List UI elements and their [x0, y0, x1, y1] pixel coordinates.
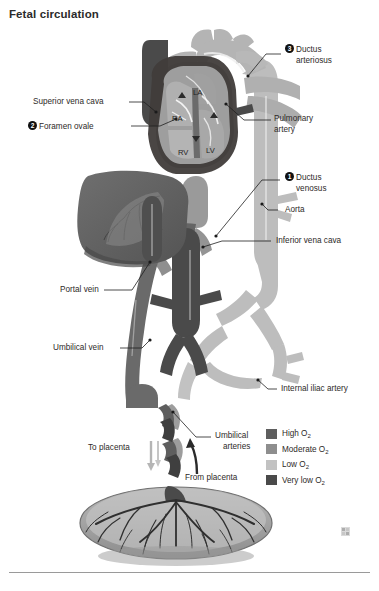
figure-page: Fetal circulation: [0, 0, 379, 591]
portal-vein: [142, 196, 162, 262]
callout-number-2: 2: [28, 121, 37, 130]
label-aorta: Aorta: [285, 205, 305, 216]
legend: High O2 Moderate O2 Low O2 Very low O2: [266, 426, 329, 488]
chamber-label-lv: LV: [206, 146, 215, 157]
legend-item-moderate-o2: Moderate O2: [266, 442, 329, 458]
chamber-label-ra: RA: [172, 114, 183, 125]
bottom-divider: [9, 572, 370, 573]
label-inferior-vena-cava: Inferior vena cava: [276, 236, 341, 247]
legend-swatch-very-low-o2: [266, 475, 277, 485]
callout-number-3: 3: [285, 44, 294, 53]
callout-ductus-venosus: 1Ductus venosus: [285, 172, 355, 194]
legend-item-high-o2: High O2: [266, 426, 329, 442]
watermark-icon: [341, 527, 350, 536]
legend-swatch-high-o2: [266, 429, 277, 439]
label-umbilical-vein: Umbilical vein: [53, 343, 104, 354]
label-portal-vein: Portal vein: [60, 285, 99, 296]
legend-swatch-moderate-o2: [266, 444, 277, 454]
label-superior-vena-cava: Superior vena cava: [33, 97, 104, 108]
liver: [77, 171, 188, 268]
callout-ductus-arteriosus: 3Ductus arteriosus: [285, 44, 355, 66]
fetal-circulation-illustration: [0, 0, 379, 591]
legend-swatch-low-o2: [266, 460, 277, 470]
legend-label-high-o2: High O2: [282, 429, 311, 438]
legend-item-low-o2: Low O2: [266, 457, 329, 473]
callout-number-1: 1: [285, 172, 294, 181]
legend-label-moderate-o2: Moderate O2: [282, 445, 329, 454]
legend-item-very-low-o2: Very low O2: [266, 473, 329, 489]
legend-label-low-o2: Low O2: [282, 460, 309, 469]
label-pulmonary-artery: Pulmonary artery: [274, 114, 334, 135]
chamber-label-rv: RV: [178, 148, 188, 159]
chamber-label-la: LA: [193, 88, 202, 99]
placenta: [80, 486, 272, 566]
label-from-placenta: From placenta: [185, 473, 237, 484]
label-to-placenta: To placenta: [88, 443, 130, 454]
callout-foramen-ovale: 2Foramen ovale: [28, 121, 94, 133]
legend-label-very-low-o2: Very low O2: [282, 476, 325, 485]
label-internal-iliac-artery: Internal iliac artery: [281, 384, 348, 395]
